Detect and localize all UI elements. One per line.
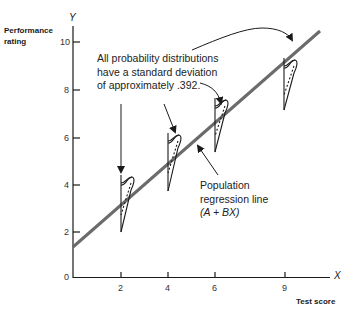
sd-annotation-line2: have a standard deviation bbox=[97, 66, 218, 80]
y-tick-2: 2 bbox=[64, 227, 69, 237]
regression-annotation-line3: (A + BX) bbox=[200, 206, 268, 220]
x-axis bbox=[73, 272, 330, 278]
sd-annotation: All probability distributions have a sta… bbox=[97, 52, 218, 93]
x-tick-2: 2 bbox=[118, 283, 123, 293]
diagram-canvas bbox=[0, 0, 354, 310]
regression-diagram: Y Performance rating 10 8 6 4 2 0 2 4 6 … bbox=[0, 0, 354, 310]
y-axis-symbol: Y bbox=[69, 12, 76, 23]
sd-annotation-line1: All probability distributions bbox=[97, 52, 218, 66]
y-tick-0: 0 bbox=[64, 272, 69, 282]
arrow-to-x4 bbox=[164, 104, 175, 132]
regression-line-annotation: Population regression line (A + BX) bbox=[200, 179, 268, 220]
distribution-x6 bbox=[215, 98, 228, 152]
y-tick-6: 6 bbox=[64, 133, 69, 143]
annotation-arrows bbox=[121, 28, 292, 175]
x-axis-symbol: X bbox=[334, 270, 341, 281]
x-tick-9: 9 bbox=[282, 283, 287, 293]
x-tick-6: 6 bbox=[212, 283, 217, 293]
y-tick-4: 4 bbox=[64, 180, 69, 190]
regression-annotation-line2: regression line bbox=[200, 193, 268, 207]
sd-annotation-line3: of approximately .392. bbox=[97, 79, 218, 93]
y-tick-10: 10 bbox=[60, 37, 70, 47]
y-axis-title-line1: Performance bbox=[4, 25, 53, 36]
distribution-x9 bbox=[284, 58, 297, 110]
y-axis-title-line2: rating bbox=[4, 36, 26, 47]
regression-annotation-line1: Population bbox=[200, 179, 268, 193]
y-tick-8: 8 bbox=[64, 85, 69, 95]
x-tick-4: 4 bbox=[165, 283, 170, 293]
arrow-to-x9 bbox=[192, 28, 292, 50]
x-axis-title: Test score bbox=[296, 296, 335, 307]
